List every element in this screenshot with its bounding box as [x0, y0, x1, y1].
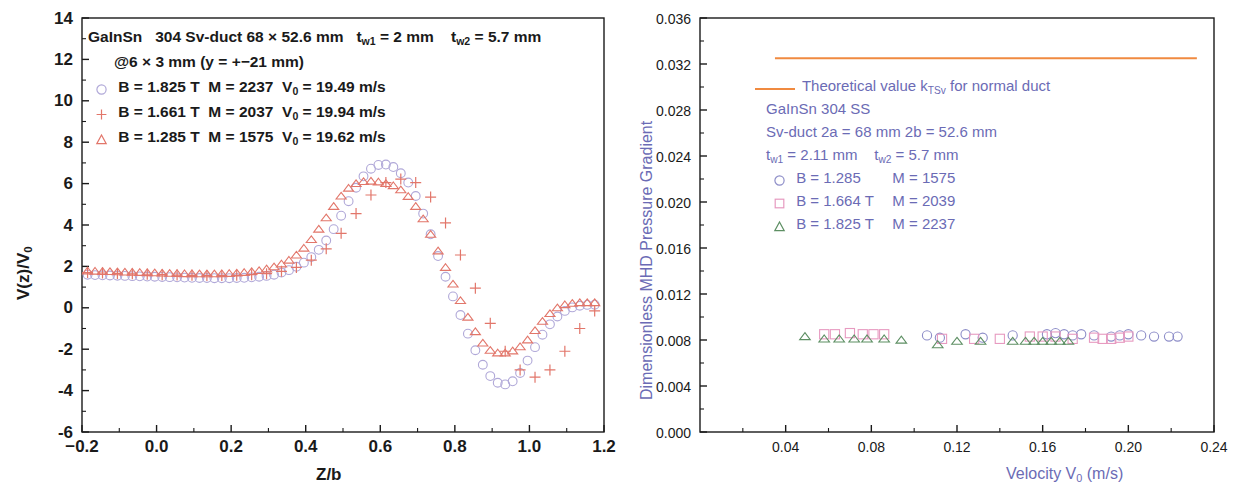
svg-text:6: 6: [64, 174, 73, 193]
left-legend-item-2[interactable]: B = 1.285 T M = 1575 V0 = 19.62 m/s: [88, 124, 541, 149]
triangle-marker-icon: [88, 125, 114, 150]
svg-text:0.4: 0.4: [294, 437, 318, 456]
right-annotation-line-1: Sv-duct 2a = 68 mm 2b = 52.6 mm: [752, 120, 1050, 143]
series-plus: [82, 174, 600, 383]
chart-panel-right: 0.0360.0320.0280.0240.0200.0160.0120.008…: [622, 0, 1244, 496]
svg-text:-2: -2: [58, 340, 73, 359]
svg-text:0.0: 0.0: [145, 437, 169, 456]
svg-text:0.008: 0.008: [656, 333, 691, 349]
svg-text:0.8: 0.8: [443, 437, 467, 456]
right-y-axis-title: Dimensionless MHD Pressure Gradient: [638, 121, 656, 400]
svg-text:1.2: 1.2: [592, 437, 616, 456]
svg-text:0.000: 0.000: [656, 425, 691, 441]
left-y-axis-title: V(z)/V0: [14, 246, 34, 300]
left-legend-item-0[interactable]: B = 1.825 T M = 2237 V0 = 19.49 m/s: [88, 74, 541, 99]
reference-line-legend-item[interactable]: Theoretical value kTSv for normal duct: [752, 74, 1050, 97]
right-legend-item-0[interactable]: B = 1.285 M = 1575: [752, 166, 1050, 189]
chart-panel-left: 14121086420-2-4-6−0.20.00.20.40.60.81.01…: [0, 0, 622, 496]
svg-text:12: 12: [54, 50, 73, 69]
svg-text:0.036: 0.036: [656, 11, 691, 27]
right-annotation-line-0: GaInSn 304 SS: [752, 97, 1050, 120]
svg-text:0.024: 0.024: [656, 149, 691, 165]
left-x-axis-title: Z/b: [316, 465, 342, 485]
svg-text:1.0: 1.0: [518, 437, 542, 456]
svg-text:0.028: 0.028: [656, 103, 691, 119]
right-annotation-thickness: tw1 = 2.11 mm tw2 = 5.7 mm: [752, 143, 1050, 166]
triangle-marker-icon: [766, 214, 792, 237]
svg-text:2: 2: [64, 257, 73, 276]
svg-text:−0.2: −0.2: [65, 437, 99, 456]
svg-text:0.24: 0.24: [1200, 439, 1227, 455]
series-circle: [922, 329, 1182, 343]
svg-text:0.6: 0.6: [368, 437, 392, 456]
svg-text:10: 10: [54, 91, 73, 110]
svg-text:0.020: 0.020: [656, 195, 691, 211]
circle-marker-icon: [88, 75, 114, 100]
svg-text:0.08: 0.08: [858, 439, 885, 455]
right-legend: Theoretical value kTSv for normal duct G…: [752, 74, 1050, 235]
left-legend: GaInSn 304 Sv-duct 68 × 52.6 mm tw1 = 2 …: [88, 24, 541, 149]
svg-text:4: 4: [64, 216, 74, 235]
svg-text:0.16: 0.16: [1029, 439, 1056, 455]
plus-marker-icon: [88, 100, 114, 125]
svg-text:0: 0: [64, 298, 73, 317]
figure-root: 14121086420-2-4-6−0.20.00.20.40.60.81.01…: [0, 0, 1244, 496]
right-legend-item-1[interactable]: B = 1.664 T M = 2039: [752, 189, 1050, 212]
line-marker-icon: [752, 76, 798, 99]
left-annotation-line-2: @6 × 3 mm (y = +−21 mm): [88, 49, 541, 74]
svg-text:0.012: 0.012: [656, 287, 691, 303]
svg-text:0.004: 0.004: [656, 379, 691, 395]
circle-marker-icon: [766, 168, 792, 191]
svg-text:14: 14: [54, 9, 73, 28]
svg-text:0.12: 0.12: [943, 439, 970, 455]
square-marker-icon: [766, 191, 792, 214]
svg-text:0.2: 0.2: [219, 437, 243, 456]
svg-text:-4: -4: [58, 381, 74, 400]
left-legend-item-1[interactable]: B = 1.661 T M = 2037 V0 = 19.94 m/s: [88, 99, 541, 124]
right-x-axis-title: Velocity V0 (m/s): [1006, 465, 1123, 484]
series-triangle: [83, 177, 600, 355]
svg-text:0.20: 0.20: [1115, 439, 1142, 455]
left-annotation-line-1: GaInSn 304 Sv-duct 68 × 52.6 mm tw1 = 2 …: [88, 24, 541, 49]
svg-text:0.04: 0.04: [772, 439, 799, 455]
svg-text:8: 8: [64, 133, 73, 152]
svg-text:0.016: 0.016: [656, 241, 691, 257]
svg-text:0.032: 0.032: [656, 57, 691, 73]
right-legend-item-2[interactable]: B = 1.825 T M = 2237: [752, 212, 1050, 235]
